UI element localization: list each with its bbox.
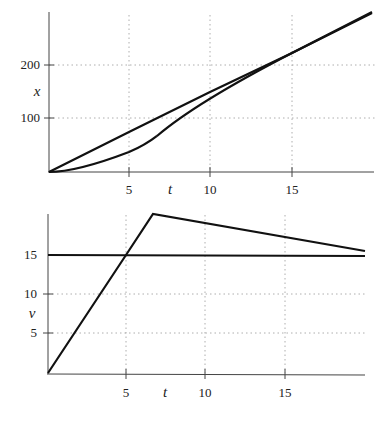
x-tick-10: 10 (199, 385, 212, 400)
y-tick-10: 10 (24, 286, 37, 301)
x-tick-5: 5 (123, 385, 130, 400)
x-axis (47, 374, 365, 375)
y-tick-15: 15 (24, 247, 37, 262)
y-axis-label: v (29, 305, 36, 321)
figure: 5 10 15 100 200 t x 5 10 15 5 (0, 0, 390, 425)
x-axis-label: t (163, 384, 168, 400)
grid (48, 215, 365, 373)
x-tick-15: 15 (286, 182, 299, 197)
y-tick-200: 200 (21, 57, 41, 72)
y-tick-100: 100 (21, 110, 41, 125)
position-chart: 5 10 15 100 200 t x (21, 12, 376, 197)
x-tick-10: 10 (204, 182, 217, 197)
x-tick-15: 15 (279, 385, 292, 400)
series-ramp-velocity (48, 214, 365, 373)
y-axis-label: x (33, 83, 41, 99)
x-axis-label: t (168, 181, 173, 197)
y-tick-5: 5 (31, 325, 38, 340)
series-constant-velocity (48, 255, 365, 256)
x-tick-5: 5 (126, 182, 133, 197)
velocity-chart: 5 10 15 5 10 15 t v (24, 214, 365, 400)
